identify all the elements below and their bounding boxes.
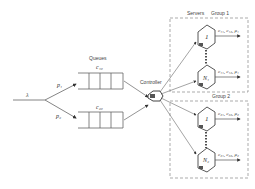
controller-server-edges	[160, 42, 196, 154]
server-g1-n-output: c₁₁, c₁₂, μ₁	[218, 69, 239, 74]
server-g2-n-id: N₂	[203, 157, 209, 163]
routing-prob-2-label: p₂	[56, 113, 61, 119]
arrival-edge	[13, 84, 76, 118]
group-2-label: Group 2	[212, 94, 230, 99]
queue-1-label: c₁₀	[96, 64, 103, 70]
queue-2	[78, 112, 123, 128]
queues-title: Queues	[89, 56, 107, 61]
controller-label: Controller	[140, 80, 162, 85]
group-1-label: Group 1	[211, 11, 229, 16]
routing-prob-1-label: p₁	[57, 82, 62, 88]
server-g2-n-output: c₂₁, c₂₂, μ₂	[218, 152, 239, 157]
server-g1-n-id: N₁	[203, 75, 209, 81]
server-g1-1-id: 1	[205, 34, 209, 41]
servers-title: Servers	[187, 11, 204, 16]
server-g2-1-output: c₂₁, c₂₂, μ₂	[218, 111, 239, 116]
queue-1	[78, 73, 123, 89]
controller-icon	[148, 91, 163, 101]
server-g2-1-id: 1	[205, 116, 209, 123]
queue-2-label: c₂₀	[96, 104, 103, 110]
arrival-rate-label: λ	[26, 92, 29, 98]
queue-controller-edges	[124, 81, 148, 120]
server-g1-1-output: c₁₁, c₁₂, μ₁	[218, 28, 239, 33]
